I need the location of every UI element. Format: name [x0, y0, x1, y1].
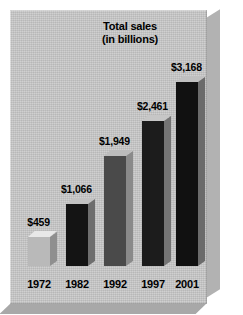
plot-area: $459 1972 $1,066 1982 $1,949 1992 [10, 10, 207, 304]
bar-value-label: $1,949 [99, 135, 130, 147]
panel-3d-bottom-face [0, 303, 207, 314]
category-label: 1992 [96, 278, 134, 290]
bar-front-face [66, 204, 88, 266]
bar-group[interactable]: $3,168 [176, 82, 198, 266]
bar-group[interactable]: $1,066 [66, 204, 88, 266]
category-label: 1982 [58, 278, 96, 290]
bar-front-face [142, 121, 164, 266]
panel-3d-side-face [206, 9, 220, 298]
bar-side-face [50, 232, 57, 266]
bar-value-label: $1,066 [61, 183, 92, 195]
bar-group[interactable]: $1,949 [104, 156, 126, 266]
category-label: 1997 [134, 278, 172, 290]
chart-panel: Total sales (in billions) $459 1972 $1,0… [10, 10, 207, 304]
bar-value-label: $2,461 [137, 100, 168, 112]
bar-group[interactable]: $459 [28, 237, 50, 266]
bar-value-label: $459 [27, 216, 50, 228]
category-label: 2001 [168, 278, 206, 290]
bar-value-label: $3,168 [171, 61, 202, 73]
category-label: 1972 [20, 278, 58, 290]
bar-side-face [164, 116, 171, 266]
chart-root: Total sales (in billions) $459 1972 $1,0… [0, 0, 243, 315]
bar-front-face [28, 237, 50, 266]
bar-side-face [88, 199, 95, 266]
bar-side-face [126, 151, 133, 266]
bar-side-face [198, 77, 205, 266]
bar-front-face [176, 82, 198, 266]
bar-group[interactable]: $2,461 [142, 121, 164, 266]
bar-front-face [104, 156, 126, 266]
